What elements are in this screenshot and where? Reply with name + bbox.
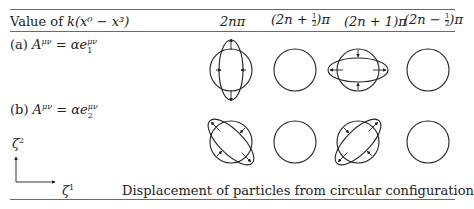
displacement-arrow — [338, 153, 347, 162]
displacement-arrow — [344, 128, 349, 133]
displacement-arrow — [367, 151, 372, 156]
displacement-arrow — [369, 122, 378, 131]
displacement-arrow — [211, 122, 220, 131]
displacement-arrow — [242, 153, 251, 162]
displacement-arrow — [240, 128, 245, 133]
displacement-arrow — [217, 151, 222, 156]
reference-circle — [274, 49, 316, 91]
reference-circle — [407, 121, 449, 163]
reference-circle — [274, 121, 316, 163]
shape-grid — [201, 39, 449, 172]
reference-circle — [407, 49, 449, 91]
